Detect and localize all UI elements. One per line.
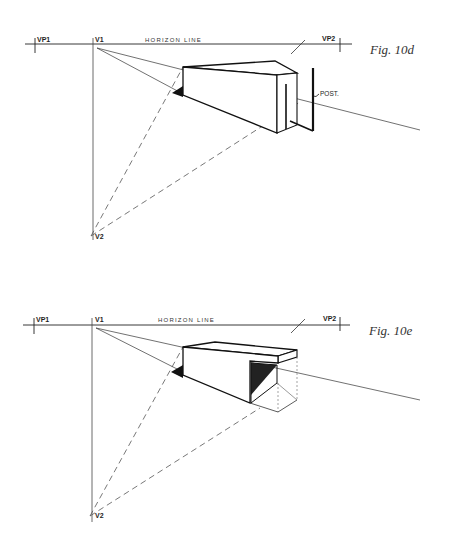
figure-caption-10d: Fig. 10d xyxy=(370,42,414,58)
figure-10d: VP1 V1 HORIZON LINE VP2 V2 POST. xyxy=(25,35,420,240)
figure-10e: VP1 V1 HORIZON LINE VP2 V2 xyxy=(23,315,420,522)
post-annotation: POST. xyxy=(320,90,339,97)
horizon-label: HORIZON LINE xyxy=(145,37,202,43)
v2-label: V2 xyxy=(95,512,104,519)
perspective-diagrams: VP1 V1 HORIZON LINE VP2 V2 POST. VP1 V1 … xyxy=(0,0,451,551)
figure-caption-10e: Fig. 10e xyxy=(369,323,412,339)
v2-label: V2 xyxy=(95,233,104,240)
v1-label: V1 xyxy=(95,316,104,323)
vp1-label: VP1 xyxy=(36,316,49,323)
horizon-label: HORIZON LINE xyxy=(158,317,215,323)
v1-label: V1 xyxy=(95,36,104,43)
vp2-label: VP2 xyxy=(322,35,335,42)
vp2-label: VP2 xyxy=(323,315,336,322)
vp1-label: VP1 xyxy=(37,36,50,43)
